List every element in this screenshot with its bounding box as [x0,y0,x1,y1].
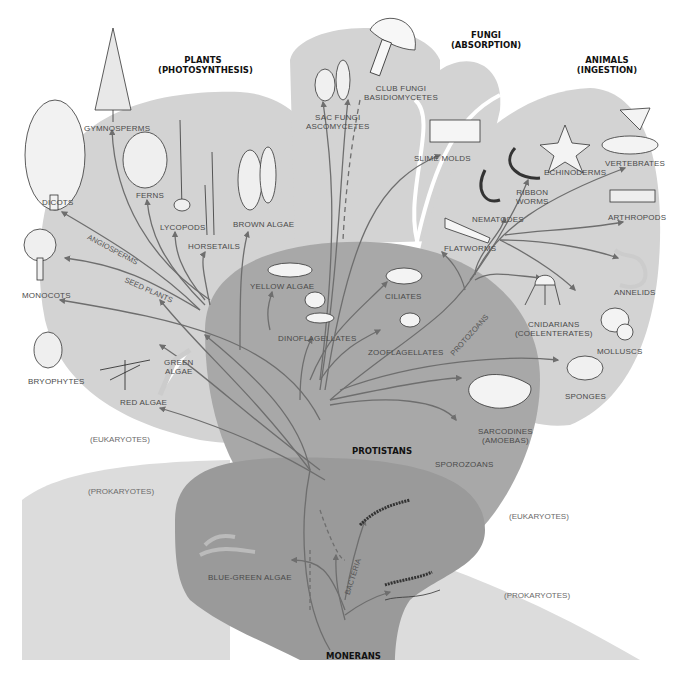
kingdom-protistans-heading: PROTISTANS [352,446,412,456]
kingdom-plants-heading: PLANTS (PHOTOSYNTHESIS) [158,55,248,75]
label-arthropods: ARTHROPODS [608,213,666,222]
label-lycopods: LYCOPODS [160,223,205,232]
label-sporozoans: SPOROZOANS [435,460,493,469]
slime-mold-icon [430,120,480,142]
gymnosperm-tree-icon [95,28,131,122]
kingdom-monerans-heading: MONERANS [326,651,381,661]
label-zooflagellates: ZOOFLAGELLATES [368,348,444,357]
label-dicots: DICOTS [42,198,73,207]
eukaryotes-label-left: (EUKARYOTES) [90,435,150,444]
label-echinoderms: ECHINODERMS [544,168,606,177]
label-ribbon-worms: RIBBON WORMS [516,188,549,206]
prokaryotes-label-left: (PROKARYOTES) [88,487,154,496]
label-nematodes: NEMATODES [472,215,524,224]
label-horsetails: HORSETAILS [188,242,240,251]
ciliate-icon [386,268,422,284]
label-club-fungi: CLUB FUNGI BASIDIOMYCETES [364,84,438,102]
label-bryophytes: BRYOPHYTES [28,377,85,386]
dicot-tree-icon [25,100,85,210]
brown-algae-icon [238,147,276,210]
label-red-algae: RED ALGAE [120,398,167,407]
label-annelids: ANNELIDS [614,288,656,297]
label-dinoflagellates: DINOFLAGELLATES [278,334,356,343]
label-green-algae: GREEN ALGAE [164,358,193,376]
label-slime-molds: SLIME MOLDS [414,154,471,163]
prokaryotes-label-right: (PROKARYOTES) [504,591,570,600]
yellow-algae-icon [268,263,312,277]
label-vertebrates: VERTEBRATES [605,159,665,168]
label-monocots: MONOCOTS [22,291,71,300]
label-blue-green-algae: BLUE-GREEN ALGAE [208,573,292,582]
bryophyte-icon [34,332,62,368]
label-sac-fungi: SAC FUNGI ASCOMYCETES [306,113,370,131]
kingdom-animals-heading: ANIMALS (INGESTION) [572,55,642,75]
label-flatworms: FLATWORMS [444,244,496,253]
label-cnidarians: CNIDARIANS (COELENTERATES) [515,320,593,338]
label-sarcodines: SARCODINES (AMOEBAS) [478,427,533,445]
label-brown-algae: BROWN ALGAE [233,220,294,229]
label-sponges: SPONGES [565,392,606,401]
eukaryotes-label-right: (EUKARYOTES) [509,512,569,521]
zooflagellate-icon [400,313,420,327]
arthropod-icon [610,190,655,202]
label-ciliates: CILIATES [385,292,422,301]
label-yellow-algae: YELLOW ALGAE [250,282,314,291]
sponge-icon [567,356,603,380]
label-molluscs: MOLLUSCS [597,347,643,356]
label-ferns: FERNS [136,191,164,200]
fern-icon [123,132,167,188]
label-gymnosperms: GYMNOSPERMS [84,124,150,133]
kingdom-fungi-heading: FUNGI (ABSORPTION) [446,30,526,50]
